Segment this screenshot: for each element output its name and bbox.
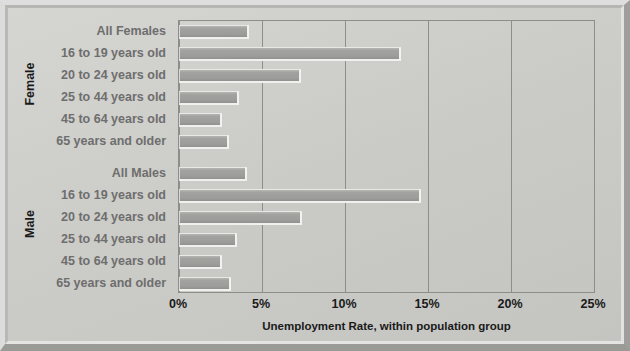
bar-female-20-to-24[interactable] <box>179 69 301 83</box>
xtick-label-10: 10% <box>314 297 374 311</box>
category-label-male-45-64: 45 to 64 years old <box>61 254 166 268</box>
group-label-female: Female <box>22 54 38 114</box>
bar-male-20-to-24[interactable] <box>179 211 302 225</box>
category-label-female-20-24: 20 to 24 years old <box>61 68 166 82</box>
xtick-label-5: 5% <box>231 297 291 311</box>
category-label-male-16-19: 16 to 19 years old <box>61 188 166 202</box>
category-label-female-45-64: 45 to 64 years old <box>61 112 166 126</box>
xtick-label-15: 15% <box>397 297 457 311</box>
xtick-label-25: 25% <box>563 297 623 311</box>
plot-area <box>178 20 595 293</box>
gridline-25 <box>594 21 595 292</box>
bar-female-16-to-19[interactable] <box>179 47 401 61</box>
gridline-15 <box>428 21 429 292</box>
category-label-female-65-plus: 65 years and older <box>56 134 166 148</box>
gridline-20 <box>511 21 512 292</box>
bar-female-all-females[interactable] <box>179 25 249 39</box>
bar-male-16-to-19[interactable] <box>179 189 421 203</box>
category-label-male-25-44: 25 to 44 years old <box>61 232 166 246</box>
bar-female-65-and-older[interactable] <box>179 135 229 149</box>
gridline-5 <box>262 21 263 292</box>
gridline-10 <box>345 21 346 292</box>
bar-male-45-to-64[interactable] <box>179 255 222 269</box>
category-label-male-all: All Males <box>112 166 166 180</box>
xtick-label-20: 20% <box>480 297 540 311</box>
bar-female-25-to-44[interactable] <box>179 91 239 105</box>
xtick-label-0: 0% <box>148 297 208 311</box>
bar-female-45-to-64[interactable] <box>179 113 222 127</box>
bar-male-65-and-older[interactable] <box>179 277 231 291</box>
category-label-male-65-plus: 65 years and older <box>56 276 166 290</box>
gridline-0 <box>179 21 180 292</box>
category-label-female-all: All Females <box>97 24 166 38</box>
x-axis-title: Unemployment Rate, within population gro… <box>178 320 595 332</box>
bar-male-25-to-44[interactable] <box>179 233 237 247</box>
category-label-female-25-44: 25 to 44 years old <box>61 90 166 104</box>
bar-male-all-males[interactable] <box>179 167 247 181</box>
category-label-female-16-19: 16 to 19 years old <box>61 46 166 60</box>
group-label-male: Male <box>22 194 38 254</box>
unemployment-bar-chart: All Females 16 to 19 years old 20 to 24 … <box>0 0 630 351</box>
category-label-male-20-24: 20 to 24 years old <box>61 210 166 224</box>
